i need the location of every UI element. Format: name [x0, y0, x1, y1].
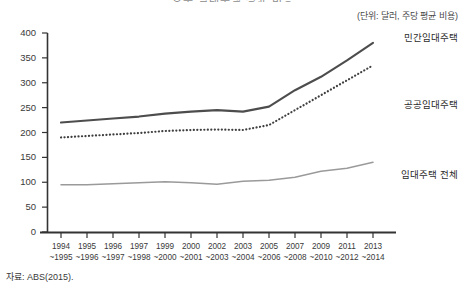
source-note: 자료: ABS(2015).: [6, 270, 74, 283]
y-tick-label-250: 250: [8, 103, 36, 113]
unit-label: (단위: 달러, 주당 평균 비용): [357, 9, 458, 22]
y-tick-label-0: 0: [8, 227, 36, 237]
y-tick-label-300: 300: [8, 78, 36, 88]
y-tick-label-100: 100: [8, 177, 36, 187]
chart-series-layer: [61, 38, 392, 185]
y-tick-label-150: 150: [8, 152, 36, 162]
y-tick-label-350: 350: [8, 53, 36, 63]
legend-label-total: 임대주택 전체: [401, 167, 458, 181]
y-tick-label-400: 400: [8, 28, 36, 38]
series-line-1: [61, 65, 373, 137]
chart-title: 호주 임대주택 평균 비용: [0, 0, 466, 2]
y-tick-label-200: 200: [8, 128, 36, 138]
x-tick-label-12: 2013~2014: [353, 241, 393, 263]
y-tick-label-50: 50: [8, 202, 36, 212]
legend-label-public: 공공임대주택: [404, 97, 458, 111]
chart-figure: 호주 임대주택 평균 비용 (단위: 달러, 주당 평균 비용) 민간임대주택 …: [0, 0, 466, 293]
legend-label-private: 민간임대주택: [404, 30, 458, 44]
y-axis-ticks: [42, 33, 48, 232]
series-line-0: [61, 43, 373, 123]
series-line-2: [61, 162, 373, 184]
